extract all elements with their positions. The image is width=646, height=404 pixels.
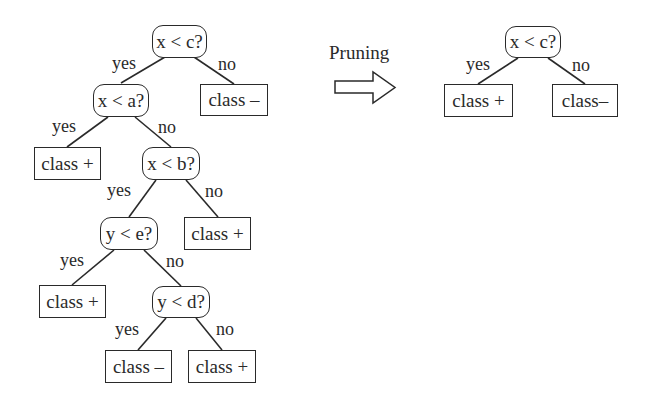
pruned-edge-label-no: no (572, 56, 590, 74)
node-label: class – (113, 356, 164, 378)
node-label: x < c? (510, 31, 557, 53)
tree-connectors (0, 0, 646, 404)
decision-node-y-lt-e: y < e? (100, 217, 158, 250)
pruned-leaf-node-class-minus: class– (552, 84, 618, 117)
decision-node-x-lt-c: x < c? (152, 25, 207, 58)
edge-label-no: no (216, 320, 234, 338)
edge-label-yes: yes (52, 117, 76, 135)
decision-node-x-lt-b: x < b? (142, 147, 200, 180)
node-label: class + (41, 153, 93, 175)
leaf-node-class-minus: class – (200, 84, 268, 116)
leaf-node-class-plus: class + (184, 217, 251, 250)
edge-label-no: no (205, 182, 223, 200)
node-label: y < d? (157, 291, 205, 313)
leaf-node-class-minus: class – (105, 350, 172, 383)
node-label: x < c? (156, 31, 203, 53)
node-label: class + (196, 356, 248, 378)
leaf-node-class-plus: class + (188, 350, 256, 383)
node-label: class + (191, 223, 243, 245)
pruning-caption: Pruning (329, 43, 389, 62)
edge-label-yes: yes (60, 251, 84, 269)
edge-label-yes: yes (112, 54, 136, 72)
pruned-leaf-node-class-plus: class + (444, 84, 513, 117)
pruning-arrow-icon (335, 72, 395, 103)
edge-label-no: no (158, 118, 176, 136)
edge-label-no: no (218, 55, 236, 73)
edge-yd-yes (138, 318, 166, 350)
leaf-node-class-plus: class + (34, 147, 101, 180)
node-label: class– (562, 90, 608, 112)
node-label: x < a? (98, 90, 145, 112)
edge-label-yes: yes (115, 320, 139, 338)
pruned-decision-node-x-lt-c: x < c? (505, 26, 561, 58)
node-label: x < b? (147, 153, 195, 175)
node-label: y < e? (106, 223, 153, 245)
edge-label-no: no (166, 252, 184, 270)
pruned-edge-label-yes: yes (466, 55, 490, 73)
decision-node-y-lt-d: y < d? (152, 286, 210, 318)
node-label: class + (46, 291, 98, 313)
edge-label-yes: yes (107, 181, 131, 199)
node-label: class + (452, 90, 504, 112)
leaf-node-class-plus: class + (39, 285, 106, 318)
node-label: class – (208, 89, 259, 111)
edge-xb-yes (129, 180, 156, 217)
decision-node-x-lt-a: x < a? (93, 84, 149, 117)
